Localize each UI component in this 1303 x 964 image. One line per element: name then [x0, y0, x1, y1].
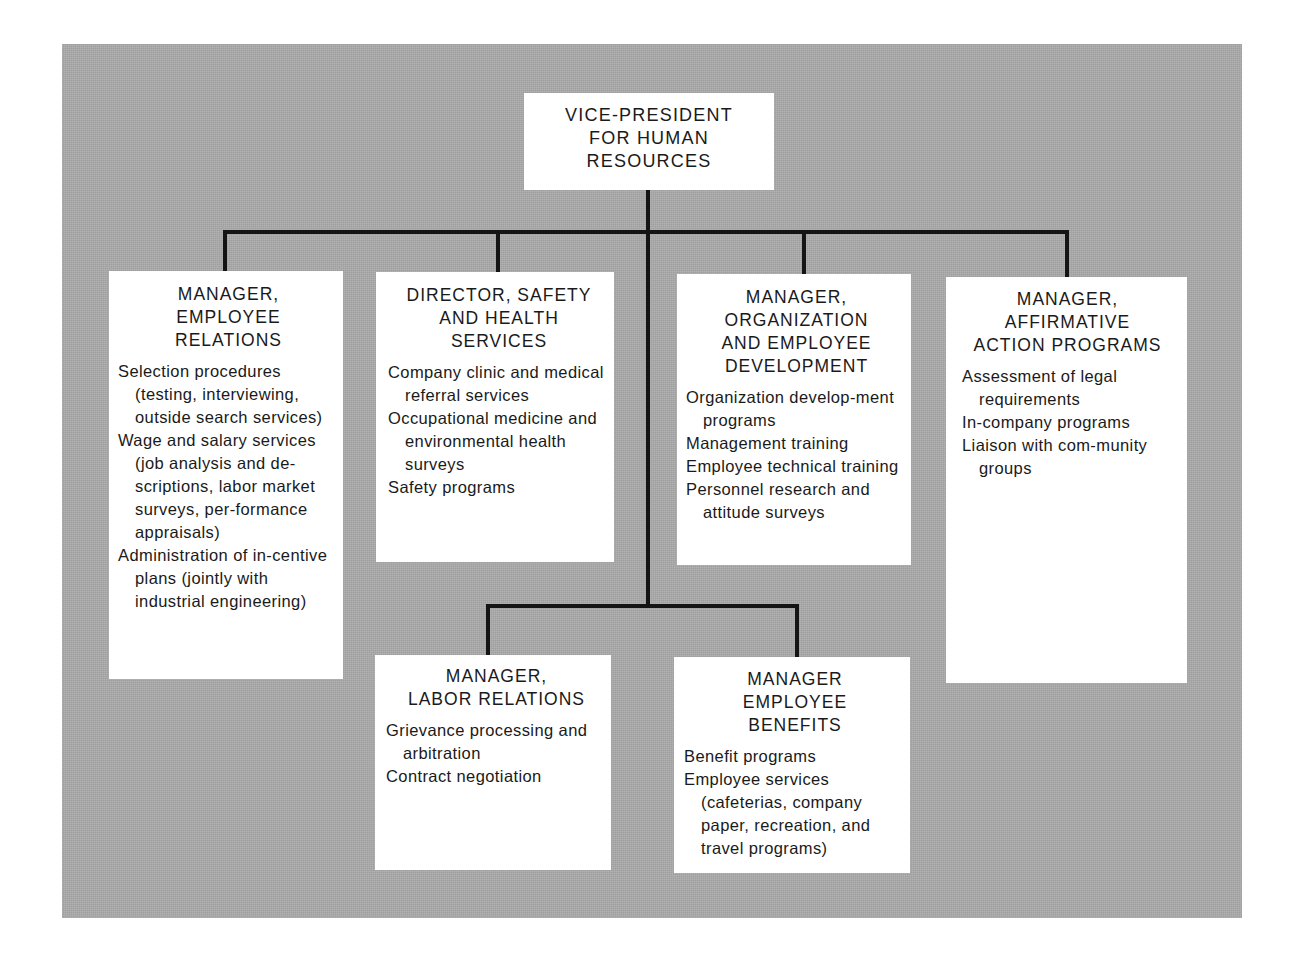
duty-item: Administration of in-centive plans (join…: [118, 544, 339, 613]
duty-item: Safety programs: [388, 476, 610, 499]
duty-item: Management training: [686, 432, 907, 455]
box-title: MANAGER, AFFIRMATIVE ACTION PROGRAMS: [952, 288, 1183, 357]
duty-item: Occupational medicine and environmental …: [388, 407, 610, 476]
duty-item: Contract negotiation: [386, 765, 607, 788]
duty-list: Benefit programs Employee services (cafe…: [684, 745, 906, 860]
box-title: MANAGER, LABOR RELATIONS: [386, 665, 607, 711]
duty-item: Liaison with com-munity groups: [962, 434, 1183, 480]
connector-labor-relations: [486, 604, 490, 656]
org-development-box: MANAGER, ORGANIZATION AND EMPLOYEE DEVEL…: [677, 274, 911, 565]
connector-lower-horizontal: [486, 604, 799, 608]
connector-upper-horizontal: [223, 230, 1069, 234]
duty-list: Grievance processing and arbitration Con…: [386, 719, 607, 788]
box-title: MANAGER, ORGANIZATION AND EMPLOYEE DEVEL…: [686, 286, 907, 378]
employee-relations-box: MANAGER, EMPLOYEE RELATIONS Selection pr…: [109, 271, 343, 679]
labor-relations-box: MANAGER, LABOR RELATIONS Grievance proce…: [375, 655, 611, 870]
duty-item: In-company programs: [962, 411, 1183, 434]
duty-list: Assessment of legal requirements In-comp…: [962, 365, 1183, 480]
vp-human-resources-box: VICE-PRESIDENT FOR HUMAN RESOURCES: [524, 93, 774, 190]
duty-item: Company clinic and medical referral serv…: [388, 361, 610, 407]
duty-list: Selection procedures (testing, interview…: [118, 360, 339, 613]
duty-item: Organization develop-ment programs: [686, 386, 907, 432]
connector-employee-benefits: [795, 604, 799, 658]
box-title: VICE-PRESIDENT FOR HUMAN RESOURCES: [524, 104, 774, 173]
duty-item: Assessment of legal requirements: [962, 365, 1183, 411]
box-title: MANAGER EMPLOYEE BENEFITS: [684, 668, 906, 737]
duty-item: Selection procedures (testing, interview…: [118, 360, 339, 429]
affirmative-action-box: MANAGER, AFFIRMATIVE ACTION PROGRAMS Ass…: [946, 277, 1187, 683]
duty-list: Organization develop-ment programs Manag…: [686, 386, 907, 524]
duty-item: Personnel research and attitude surveys: [686, 478, 907, 524]
connector-vp-trunk: [646, 188, 650, 608]
duty-item: Employee technical training: [686, 455, 907, 478]
employee-benefits-box: MANAGER EMPLOYEE BENEFITS Benefit progra…: [674, 657, 910, 873]
connector-safety-health: [496, 231, 500, 273]
connector-employee-relations: [223, 230, 227, 272]
box-title: DIRECTOR, SAFETY AND HEALTH SERVICES: [388, 284, 610, 353]
duty-item: Benefit programs: [684, 745, 906, 768]
connector-affirmative-action: [1065, 232, 1069, 277]
box-title: MANAGER, EMPLOYEE RELATIONS: [118, 283, 339, 352]
duty-item: Wage and salary services (job analysis a…: [118, 429, 339, 544]
duty-item: Grievance processing and arbitration: [386, 719, 607, 765]
safety-health-box: DIRECTOR, SAFETY AND HEALTH SERVICES Com…: [376, 272, 614, 562]
duty-list: Company clinic and medical referral serv…: [388, 361, 610, 499]
duty-item: Employee services (cafeterias, company p…: [684, 768, 906, 860]
connector-org-development: [802, 232, 806, 275]
